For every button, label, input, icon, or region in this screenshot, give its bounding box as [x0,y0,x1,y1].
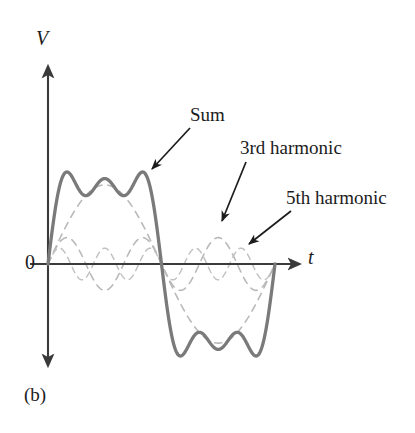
y-axis-label: V [36,28,48,48]
third-harmonic-annotation-label: 3rd harmonic [240,138,342,157]
panel-caption: (b) [24,385,46,404]
waveform-plot [0,0,415,433]
fifth-harmonic-annotation-label: 5th harmonic [286,188,387,207]
axes [30,66,300,366]
sum-arrow [152,128,190,169]
sum-annotation-label: Sum [190,105,225,124]
x-axis-label: t [308,247,314,267]
third-harmonic-arrow [222,162,246,221]
fifth-harmonic-arrow [249,211,291,244]
figure-panel-b: V t 0 Sum 3rd harmonic 5th harmonic (b) [0,0,415,433]
origin-label: 0 [25,252,35,272]
